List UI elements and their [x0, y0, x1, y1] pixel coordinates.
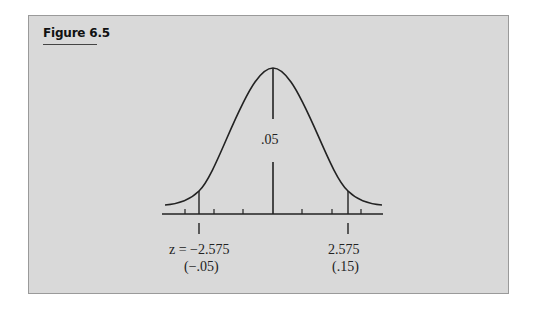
left-z-label: z = −2.575 [169, 242, 230, 258]
center-label: .05 [261, 132, 279, 148]
right-z-label: 2.575 [328, 242, 360, 258]
right-p-label: (.15) [332, 259, 359, 275]
left-p-label: (−.05) [184, 259, 219, 275]
normal-curve-diagram [0, 0, 537, 311]
